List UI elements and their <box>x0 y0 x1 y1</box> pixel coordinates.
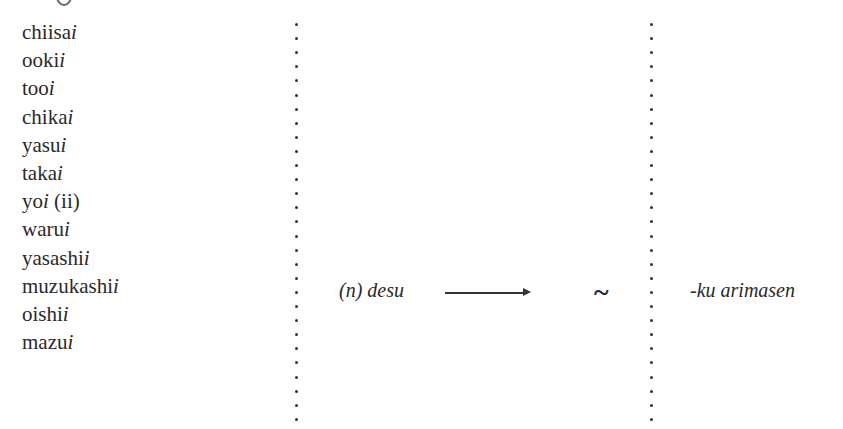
divider-dot <box>650 347 653 350</box>
divider-dot <box>650 319 653 322</box>
divider-dot <box>650 79 653 82</box>
divider-dot <box>650 235 653 238</box>
divider-dot <box>650 418 653 421</box>
divider-dot <box>295 23 298 26</box>
divider-dot <box>295 333 298 336</box>
divider-dot <box>650 404 653 407</box>
adjective-item: yasashii <box>22 244 119 272</box>
divider-dot <box>295 361 298 364</box>
divider-dot <box>650 94 653 97</box>
divider-dot <box>650 150 653 153</box>
divider-dot <box>295 277 298 280</box>
divider-dot <box>295 164 298 167</box>
divider-dot <box>295 291 298 294</box>
divider-dot <box>650 164 653 167</box>
divider-dot <box>650 263 653 266</box>
desu-label: (n) desu <box>339 279 404 302</box>
divider-dot <box>650 108 653 111</box>
divider-dot <box>650 206 653 209</box>
adjective-item: oishii <box>22 300 119 328</box>
adjective-item: tooi <box>22 74 119 102</box>
dotted-divider-right <box>650 0 653 429</box>
divider-dot <box>650 178 653 181</box>
adjective-item: chiisai <box>22 18 119 46</box>
divider-dot <box>295 65 298 68</box>
divider-dot <box>295 51 298 54</box>
divider-dot <box>650 361 653 364</box>
adjective-item: yoi (ii) <box>22 187 119 215</box>
adjective-item: warui <box>22 215 119 243</box>
divider-dot <box>650 192 653 195</box>
adjective-item: ookii <box>22 46 119 74</box>
cropped-glyph <box>56 0 72 6</box>
divider-dot <box>650 333 653 336</box>
divider-dot <box>295 347 298 350</box>
divider-dot <box>295 220 298 223</box>
divider-dot <box>295 37 298 40</box>
divider-dot <box>295 178 298 181</box>
divider-dot <box>295 263 298 266</box>
divider-dot <box>295 305 298 308</box>
divider-dot <box>295 235 298 238</box>
arrow-right-icon <box>445 292 525 294</box>
divider-dot <box>295 150 298 153</box>
divider-dot <box>295 206 298 209</box>
divider-dot <box>650 376 653 379</box>
divider-dot <box>295 192 298 195</box>
divider-dot <box>295 404 298 407</box>
divider-dot <box>295 390 298 393</box>
divider-dot <box>650 37 653 40</box>
adjective-item: muzukashii <box>22 272 119 300</box>
divider-dot <box>650 305 653 308</box>
adjective-list: chiisai ookii tooi chikai yasui takai yo… <box>22 18 119 356</box>
dotted-divider-left <box>295 0 298 429</box>
divider-dot <box>295 122 298 125</box>
divider-dot <box>295 108 298 111</box>
divider-dot <box>650 51 653 54</box>
tilde-symbol: ~ <box>594 276 609 308</box>
adjective-item: mazui <box>22 328 119 356</box>
divider-dot <box>650 220 653 223</box>
divider-dot <box>650 122 653 125</box>
divider-dot <box>650 291 653 294</box>
adjective-item: yasui <box>22 131 119 159</box>
divider-dot <box>295 136 298 139</box>
divider-dot <box>650 136 653 139</box>
divider-dot <box>295 79 298 82</box>
divider-dot <box>650 277 653 280</box>
divider-dot <box>295 319 298 322</box>
divider-dot <box>295 418 298 421</box>
adjective-item: takai <box>22 159 119 187</box>
divider-dot <box>295 376 298 379</box>
divider-dot <box>650 249 653 252</box>
adjective-item: chikai <box>22 103 119 131</box>
negative-form-label: -ku arimasen <box>690 279 795 302</box>
divider-dot <box>650 390 653 393</box>
divider-dot <box>650 23 653 26</box>
divider-dot <box>295 249 298 252</box>
divider-dot <box>295 94 298 97</box>
divider-dot <box>650 65 653 68</box>
